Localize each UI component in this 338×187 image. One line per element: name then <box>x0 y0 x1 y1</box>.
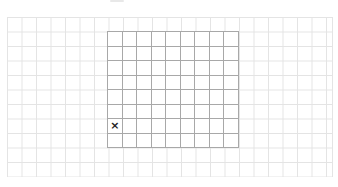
board-cell[interactable] <box>180 46 195 61</box>
board-cell[interactable]: × <box>107 118 122 133</box>
board-cell[interactable] <box>136 133 151 148</box>
board-cell[interactable] <box>151 46 166 61</box>
board-cell[interactable] <box>122 89 137 104</box>
board-cell[interactable] <box>194 133 209 148</box>
board-cell[interactable] <box>107 46 122 61</box>
board-cell[interactable] <box>122 75 137 90</box>
board-cell[interactable] <box>223 89 238 104</box>
board-cell[interactable] <box>180 75 195 90</box>
game-board[interactable]: × <box>107 31 239 148</box>
board-cell[interactable] <box>136 89 151 104</box>
board-cell[interactable] <box>165 46 180 61</box>
board-cell[interactable] <box>223 60 238 75</box>
board-cell[interactable] <box>151 75 166 90</box>
board-cell[interactable] <box>180 60 195 75</box>
board-cell[interactable] <box>122 46 137 61</box>
board-cell[interactable] <box>209 118 224 133</box>
board-cell[interactable] <box>107 133 122 148</box>
board-cell[interactable] <box>194 75 209 90</box>
board-cell[interactable] <box>136 75 151 90</box>
board-cell[interactable] <box>165 133 180 148</box>
board-cell[interactable] <box>122 133 137 148</box>
board-cell[interactable] <box>180 133 195 148</box>
board-cell[interactable] <box>122 118 137 133</box>
board-cell[interactable] <box>209 104 224 119</box>
board-cell[interactable] <box>180 118 195 133</box>
board-cell[interactable] <box>165 31 180 46</box>
board-cell[interactable] <box>209 60 224 75</box>
board-cell[interactable] <box>107 89 122 104</box>
board-cell[interactable] <box>209 133 224 148</box>
board-cell[interactable] <box>107 31 122 46</box>
board-cell[interactable] <box>151 104 166 119</box>
board-cell[interactable] <box>194 31 209 46</box>
board-cell[interactable] <box>180 31 195 46</box>
board-cell[interactable] <box>180 89 195 104</box>
board-cell[interactable] <box>136 31 151 46</box>
board-cell[interactable] <box>165 60 180 75</box>
board-cell[interactable] <box>122 60 137 75</box>
board-cell[interactable] <box>151 31 166 46</box>
board-cell[interactable] <box>107 104 122 119</box>
board-cell[interactable] <box>209 75 224 90</box>
board-cell[interactable] <box>209 89 224 104</box>
board-cell[interactable] <box>136 60 151 75</box>
board-cell[interactable] <box>107 60 122 75</box>
board-cell[interactable] <box>151 60 166 75</box>
board-cell[interactable] <box>136 46 151 61</box>
board-cell[interactable] <box>223 133 238 148</box>
board-cell[interactable] <box>122 31 137 46</box>
board-cell[interactable] <box>209 31 224 46</box>
board-cell[interactable] <box>223 75 238 90</box>
board-cell[interactable] <box>223 104 238 119</box>
board-cell[interactable] <box>223 31 238 46</box>
board-cell[interactable] <box>165 118 180 133</box>
board-cell[interactable] <box>180 104 195 119</box>
board-cell[interactable] <box>136 104 151 119</box>
board-cell[interactable] <box>107 75 122 90</box>
board-cell[interactable] <box>165 89 180 104</box>
board-cell[interactable] <box>194 118 209 133</box>
board-cell[interactable] <box>165 75 180 90</box>
board-cell[interactable] <box>194 104 209 119</box>
board-cell[interactable] <box>151 118 166 133</box>
x-mark-icon: × <box>110 119 119 132</box>
board-cell[interactable] <box>165 104 180 119</box>
board-cell[interactable] <box>136 118 151 133</box>
board-cell[interactable] <box>223 46 238 61</box>
board-cell[interactable] <box>151 89 166 104</box>
board-cell[interactable] <box>194 60 209 75</box>
board-cell[interactable] <box>151 133 166 148</box>
board-cell[interactable] <box>194 46 209 61</box>
top-edge-artifact <box>110 0 124 2</box>
board-cell[interactable] <box>194 89 209 104</box>
board-cell[interactable] <box>122 104 137 119</box>
board-cell[interactable] <box>209 46 224 61</box>
board-cell[interactable] <box>223 118 238 133</box>
